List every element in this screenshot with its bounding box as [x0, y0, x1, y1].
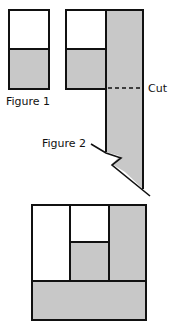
figure-1-label: Figure 1 [6, 95, 50, 108]
assembled-right-shade [109, 205, 146, 281]
cut-label: Cut [148, 82, 167, 95]
figure-1-shaded-half [9, 49, 49, 89]
figure-2-shaded-square [66, 49, 106, 89]
assembled-middle-shade [70, 242, 109, 281]
figure-2-strip-fill [106, 10, 143, 189]
figure-2-label: Figure 2 [42, 137, 86, 150]
diagram-canvas [0, 0, 176, 329]
assembled-bottom-shade [32, 281, 146, 320]
figure-2 [66, 10, 150, 196]
figure-1 [9, 10, 49, 89]
assembled-square [32, 205, 146, 320]
